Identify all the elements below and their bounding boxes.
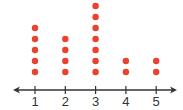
dot-plot: 12345 bbox=[0, 0, 183, 110]
data-dot bbox=[92, 36, 98, 42]
data-dot bbox=[32, 58, 38, 64]
data-dot bbox=[62, 47, 68, 53]
data-dot bbox=[32, 47, 38, 53]
data-dot bbox=[32, 69, 38, 75]
data-dot bbox=[62, 36, 68, 42]
tick-label: 1 bbox=[31, 94, 38, 109]
data-dot bbox=[62, 69, 68, 75]
data-dot bbox=[123, 69, 129, 75]
data-dot bbox=[92, 58, 98, 64]
data-dot bbox=[92, 47, 98, 53]
data-dot bbox=[32, 25, 38, 31]
tick-labels: 12345 bbox=[31, 94, 159, 109]
data-dot bbox=[153, 69, 159, 75]
data-dot bbox=[123, 58, 129, 64]
tick-label: 3 bbox=[92, 94, 99, 109]
data-dot bbox=[62, 58, 68, 64]
tick-label: 4 bbox=[122, 94, 129, 109]
data-dot bbox=[92, 14, 98, 20]
data-dot bbox=[32, 36, 38, 42]
number-line-axis bbox=[13, 86, 177, 94]
data-dot bbox=[92, 25, 98, 31]
data-dot bbox=[153, 58, 159, 64]
data-dot bbox=[92, 3, 98, 9]
dots bbox=[32, 3, 160, 75]
tick-label: 2 bbox=[62, 94, 69, 109]
data-dot bbox=[92, 69, 98, 75]
tick-label: 5 bbox=[153, 94, 160, 109]
